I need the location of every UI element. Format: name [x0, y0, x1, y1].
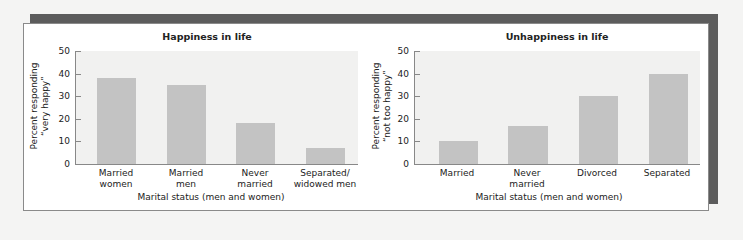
- y-tick: 10: [387, 136, 409, 146]
- y-tick: 0: [48, 159, 70, 169]
- chart-unhappiness: Unhappiness in life Percent responding “…: [364, 24, 709, 210]
- bar-never-married: [236, 123, 275, 164]
- x-axis-label: Marital status (men and women): [476, 192, 623, 202]
- bar-separated-widowed-men: [306, 148, 345, 164]
- y-tick: 10: [48, 136, 70, 146]
- y-tick: 40: [48, 69, 70, 79]
- y-tick: 0: [387, 159, 409, 169]
- y-tick: 50: [48, 46, 70, 56]
- tick-mark: [76, 74, 81, 75]
- bar-separated: [649, 74, 688, 164]
- tick-mark: [415, 119, 420, 120]
- figure-panel: Happiness in life Percent responding “ve…: [23, 23, 709, 211]
- tick-mark: [76, 96, 81, 97]
- tick-mark: [415, 74, 420, 75]
- bar-married-men: [167, 85, 206, 164]
- y-tick: 30: [48, 91, 70, 101]
- tick-mark: [415, 141, 420, 142]
- tick-mark: [76, 119, 81, 120]
- y-tick: 40: [387, 69, 409, 79]
- x-category-label: Separated: [622, 168, 712, 179]
- y-tick: 30: [387, 91, 409, 101]
- y-tick: 20: [48, 114, 70, 124]
- chart-title: Unhappiness in life: [506, 31, 609, 42]
- chart-happiness: Happiness in life Percent responding “ve…: [24, 24, 364, 210]
- plot-area: [414, 51, 700, 165]
- tick-mark: [415, 96, 420, 97]
- bar-divorced: [579, 96, 618, 164]
- bar-married: [439, 141, 478, 164]
- bar-married-women: [97, 78, 136, 164]
- tick-mark: [415, 51, 420, 52]
- tick-mark: [76, 141, 81, 142]
- chart-title: Happiness in life: [162, 31, 251, 42]
- plot-area: [75, 51, 358, 165]
- x-category-label: Separated/ widowed men: [280, 168, 370, 190]
- y-tick: 50: [387, 46, 409, 56]
- x-axis-label: Marital status (men and women): [138, 192, 285, 202]
- y-tick: 20: [387, 114, 409, 124]
- bar-never-married: [508, 126, 548, 164]
- tick-mark: [76, 51, 81, 52]
